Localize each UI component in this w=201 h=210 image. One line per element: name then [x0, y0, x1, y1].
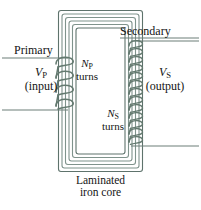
secondary-turns-label: NS turns [96, 108, 130, 133]
ns-note: turns [96, 121, 130, 133]
secondary-label: Secondary [120, 25, 171, 38]
np-note: turns [70, 71, 104, 83]
secondary-voltage-label: VS (output) [138, 66, 192, 93]
core-lamination-5 [73, 25, 129, 158]
secondary-strand-1 [129, 48, 131, 54]
primary-label: Primary [14, 44, 53, 57]
secondary-strand-4 [129, 72, 131, 78]
secondary-strand-7 [129, 96, 131, 102]
core-caption: Laminated iron core [50, 174, 151, 198]
core-lamination-4 [69, 21, 132, 161]
primary-voltage-label: VP (input) [14, 66, 68, 93]
primary-turns-label: NP turns [70, 58, 104, 83]
transformer-figure: Primary Secondary VP (input) VS (output)… [0, 0, 201, 210]
secondary-strand-3 [129, 64, 131, 70]
secondary-strand-12 [129, 136, 131, 142]
secondary-strand-5 [129, 80, 131, 86]
core-caption-line1: Laminated [76, 174, 125, 186]
core-lamination-6 [76, 28, 125, 154]
secondary-strand-2 [129, 56, 131, 62]
primary-strand-3 [56, 95, 58, 106]
core-caption-line2: iron core [50, 186, 151, 198]
vs-note: (output) [138, 80, 192, 93]
vp-note: (input) [14, 80, 68, 93]
secondary-strand-6 [129, 88, 131, 94]
